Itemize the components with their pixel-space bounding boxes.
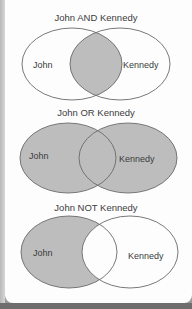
john-label: John — [33, 248, 53, 258]
venn-or: John OR Kennedy John Kennedy — [20, 107, 177, 193]
venn-and-title: John AND Kennedy — [55, 12, 138, 23]
john-label: John — [29, 151, 49, 161]
kennedy-label: Kennedy — [123, 60, 159, 70]
venn-not: John NOT Kennedy John Kennedy — [21, 202, 178, 288]
venn-not-title: John NOT Kennedy — [54, 202, 138, 213]
venn-diagrams: John AND Kennedy John Kennedy John OR Ke… — [0, 0, 192, 309]
kennedy-label: Kennedy — [119, 154, 155, 164]
kennedy-label: Kennedy — [128, 251, 164, 261]
venn-and: John AND Kennedy John Kennedy — [22, 12, 170, 100]
john-label: John — [33, 60, 53, 70]
venn-or-title: John OR Kennedy — [57, 107, 135, 118]
